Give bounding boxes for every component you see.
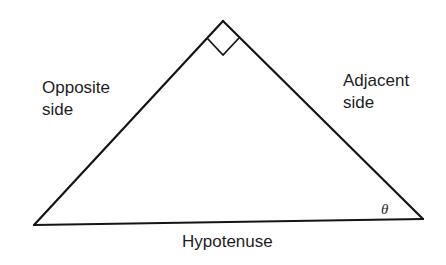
- right-triangle-diagram: Opposite side Adjacent side Hypotenuse θ: [0, 0, 446, 265]
- hypotenuse-edge: [34, 219, 423, 225]
- right-angle-marker: [207, 38, 239, 55]
- adjacent-label-line1: Adjacent: [343, 71, 409, 90]
- opposite-label-line2: side: [42, 100, 73, 119]
- adjacent-side-edge: [223, 21, 423, 219]
- opposite-label-line1: Opposite: [42, 78, 110, 97]
- angle-theta-label: θ: [381, 201, 389, 217]
- adjacent-label-line2: side: [343, 93, 374, 112]
- opposite-side-edge: [34, 21, 223, 225]
- hypotenuse-label: Hypotenuse: [182, 232, 273, 251]
